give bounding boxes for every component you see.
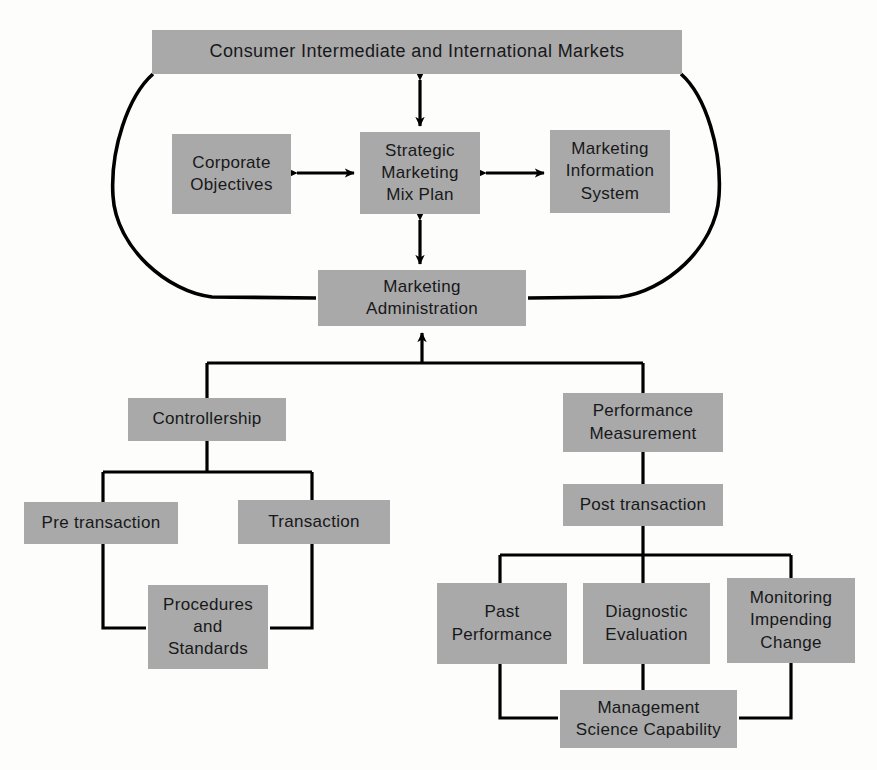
node-strategic-marketing-mix-plan[interactable]: StrategicMarketingMix Plan xyxy=(360,132,480,214)
node-label: MarketingAdministration xyxy=(324,276,520,320)
node-procedures-and-standards[interactable]: ProceduresandStandards xyxy=(148,585,268,669)
node-performance-measurement[interactable]: PerformanceMeasurement xyxy=(563,393,723,452)
node-diagnostic-evaluation[interactable]: DiagnosticEvaluation xyxy=(583,583,710,664)
node-corporate-objectives[interactable]: CorporateObjectives xyxy=(172,134,291,214)
node-monitoring-impending-change[interactable]: MonitoringImpendingChange xyxy=(727,578,855,663)
node-post-transaction[interactable]: Post transaction xyxy=(563,484,723,526)
node-label: Post transaction xyxy=(569,494,717,516)
node-marketing-information-system[interactable]: MarketingInformationSystem xyxy=(550,130,670,213)
diagram-canvas: Consumer Intermediate and International … xyxy=(0,0,877,770)
node-label: PerformanceMeasurement xyxy=(569,400,717,444)
node-label: MarketingInformationSystem xyxy=(556,138,664,204)
wire-past-to-msc xyxy=(500,664,558,718)
node-label: StrategicMarketingMix Plan xyxy=(366,140,474,206)
node-label: ProceduresandStandards xyxy=(154,594,262,660)
node-controllership[interactable]: Controllership xyxy=(128,398,286,441)
node-pre-transaction[interactable]: Pre transaction xyxy=(24,502,178,544)
node-label: ManagementScience Capability xyxy=(566,697,731,741)
node-management-science-capability[interactable]: ManagementScience Capability xyxy=(560,690,737,748)
node-consumer-intermediate-international-markets[interactable]: Consumer Intermediate and International … xyxy=(152,30,682,74)
node-label: CorporateObjectives xyxy=(178,152,285,196)
node-label: Controllership xyxy=(134,408,280,430)
node-label: Consumer Intermediate and International … xyxy=(158,40,676,63)
node-label: PastPerformance xyxy=(443,601,561,645)
node-transaction[interactable]: Transaction xyxy=(238,500,390,544)
node-label: MonitoringImpendingChange xyxy=(733,587,849,653)
node-label: Pre transaction xyxy=(30,512,172,534)
wire-transaction-to-procedures xyxy=(270,544,312,628)
node-marketing-administration[interactable]: MarketingAdministration xyxy=(318,270,526,326)
node-label: DiagnosticEvaluation xyxy=(589,601,704,645)
wire-monitoring-to-msc xyxy=(739,663,791,718)
wire-pre-to-procedures xyxy=(103,544,146,628)
node-past-performance[interactable]: PastPerformance xyxy=(437,583,567,664)
node-label: Transaction xyxy=(244,511,384,533)
